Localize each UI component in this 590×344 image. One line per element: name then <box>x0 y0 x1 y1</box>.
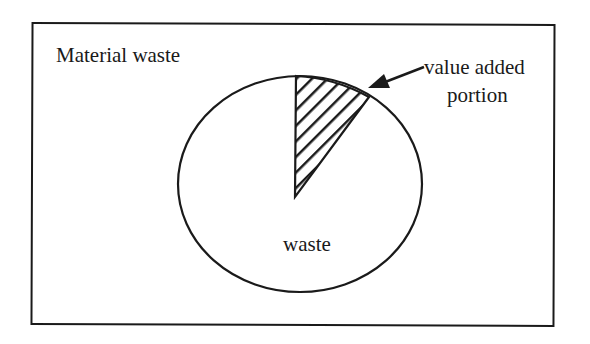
slice-label-line1: value added <box>424 57 525 78</box>
value-added-slice <box>295 76 369 197</box>
diagram-title: Material waste <box>56 45 180 66</box>
waste-label: waste <box>283 234 331 255</box>
arrow-icon <box>368 67 424 88</box>
slice-label-line2: portion <box>447 85 508 106</box>
